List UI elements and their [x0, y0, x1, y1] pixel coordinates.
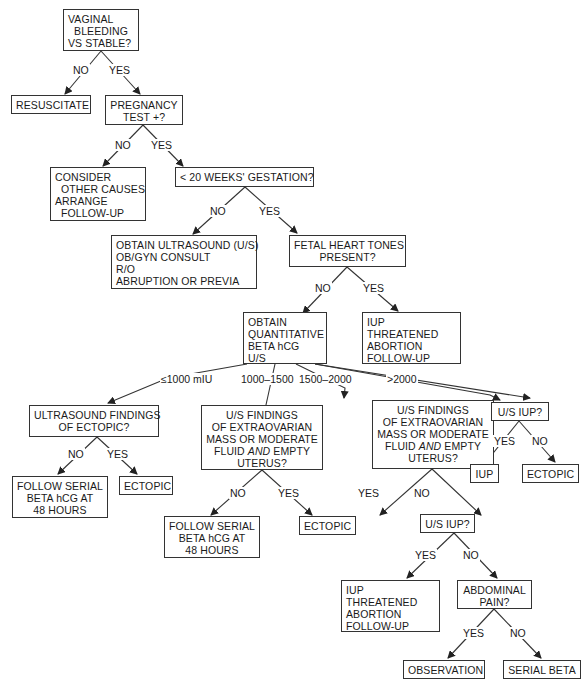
node-vaginal-bleeding-vs-stable: VAGINAL BLEEDING VS STABLE? — [63, 9, 139, 51]
edge-label-no: NO — [314, 282, 332, 294]
edge-label-1500-2000: 1500–2000 — [298, 373, 353, 385]
node-pregnancy-test: PREGNANCY TEST +? — [105, 95, 183, 125]
edge-label-yes: YES — [357, 487, 380, 499]
node-us-findings-extraovarian-2: U/S FINDINGS OF EXTRAOVARIAN MASS OR MOD… — [372, 400, 494, 469]
node-observation: OBSERVATION — [403, 660, 485, 679]
node-obtain-quantitative-beta-hcg: OBTAIN QUANTITATIVE BETA hCG U/S — [243, 312, 327, 364]
edge-label-1000-1500: 1000–1500 — [240, 373, 295, 385]
node-resuscitate: RESUSCITATE — [11, 95, 91, 114]
node-serial-beta: SERIAL BETA — [503, 660, 581, 679]
edge-label-no: NO — [509, 627, 527, 639]
edge-label-yes: YES — [258, 205, 281, 217]
edge-label-no: NO — [114, 139, 132, 151]
node-lt-20-weeks-gestation: < 20 WEEKS' GESTATION? — [175, 167, 314, 187]
edge-label-lt-1000: ≤1000 mIU — [160, 373, 213, 385]
node-follow-serial-beta-2: FOLLOW SERIAL BETA hCG AT 48 HOURS — [164, 516, 260, 558]
edge-label-no: NO — [229, 487, 247, 499]
edge-label-no: NO — [413, 487, 431, 499]
edge-label-yes: YES — [150, 139, 173, 151]
node-obtain-ultrasound: OBTAIN ULTRASOUND (U/S) OB/GYN CONSULT R… — [111, 235, 257, 289]
node-us-iup-1: U/S IUP? — [491, 402, 549, 421]
node-us-findings-extraovarian-1: U/S FINDINGS OF EXTRAOVARIAN MASS OR MOD… — [201, 405, 323, 470]
node-iup-threatened-abortion-2: IUP THREATENED ABORTION FOLLOW-UP — [341, 580, 440, 632]
node-abdominal-pain: ABDOMINAL PAIN? — [457, 580, 532, 609]
node-fetal-heart-tones: FETAL HEART TONES PRESENT? — [289, 235, 406, 267]
node-iup: IUP — [470, 464, 499, 483]
edge-label-yes: YES — [106, 448, 129, 460]
edge-label-no: NO — [209, 205, 227, 217]
edge-label-no: NO — [531, 435, 549, 447]
edge-label-no: NO — [67, 448, 85, 460]
node-iup-threatened-abortion-1: IUP THREATENED ABORTION FOLLOW-UP — [362, 312, 461, 364]
edge-label-yes: YES — [493, 435, 516, 447]
node-ultrasound-findings-of-ectopic: ULTRASOUND FINDINGS OF ECTOPIC? — [29, 405, 159, 437]
node-ectopic-3: ECTOPIC — [299, 516, 356, 535]
edge-label-no: NO — [462, 549, 480, 561]
node-consider-other-causes: CONSIDER OTHER CAUSES ARRANGE FOLLOW-UP — [50, 167, 146, 221]
node-follow-serial-beta-1: FOLLOW SERIAL BETA hCG AT 48 HOURS — [12, 476, 108, 518]
edge-label-gt-2000: >2000 — [386, 373, 418, 385]
node-ectopic-1: ECTOPIC — [119, 476, 173, 495]
edge-label-yes: YES — [362, 282, 385, 294]
edge-label-yes: YES — [414, 549, 437, 561]
node-us-iup-2: U/S IUP? — [420, 514, 475, 533]
edge-label-yes: YES — [277, 487, 300, 499]
node-ectopic-2: ECTOPIC — [522, 464, 579, 483]
edge-label-yes: YES — [108, 64, 131, 76]
edge-label-no: NO — [72, 64, 90, 76]
edge-label-yes: YES — [462, 627, 485, 639]
